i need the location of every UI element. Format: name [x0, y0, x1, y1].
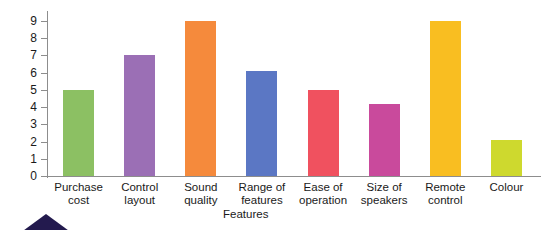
- y-tick-label: 7: [5, 49, 37, 61]
- x-tick-label-line: Colour: [476, 181, 537, 194]
- x-tick-label-remote-control: Remotecontrol: [415, 181, 476, 207]
- x-tick-label-line: speakers: [354, 194, 415, 207]
- x-tick-label-line: Control: [109, 181, 170, 194]
- x-tick-label-ease-of-operation: Ease ofoperation: [293, 181, 354, 207]
- y-tick-3: [41, 124, 48, 125]
- x-tick-label-line: Purchase: [48, 181, 109, 194]
- plot-area: [48, 12, 537, 176]
- y-tick-label-text: 1: [11, 153, 37, 165]
- x-tick-label-line: Sound: [170, 181, 231, 194]
- x-tick-label-line: operation: [293, 194, 354, 207]
- y-tick-label: 1: [5, 153, 37, 165]
- bar-remote-control: [430, 21, 461, 176]
- navy-triangle-icon: [16, 214, 76, 230]
- y-tick-4: [41, 107, 48, 108]
- y-tick-label: 0: [5, 170, 37, 182]
- bar-size-of-speakers: [369, 104, 400, 176]
- bar-range-of-features: [246, 71, 277, 176]
- x-tick-label-line: quality: [170, 194, 231, 207]
- y-tick-7: [41, 55, 48, 56]
- bar-chart-figure: 0123456789 PurchasecostControllayoutSoun…: [0, 0, 553, 230]
- bar-sound-quality: [185, 21, 216, 176]
- x-tick-label-colour: Colour: [476, 181, 537, 194]
- y-tick-label: 9: [5, 15, 37, 27]
- x-tick-label-line: Ease of: [293, 181, 354, 194]
- bar-purchase-cost: [63, 90, 94, 176]
- x-axis-line: [41, 176, 541, 177]
- x-tick-label-purchase-cost: Purchasecost: [48, 181, 109, 207]
- y-tick-label-text: 5: [11, 84, 37, 96]
- x-tick-label-control-layout: Controllayout: [109, 181, 170, 207]
- x-tick-label-size-of-speakers: Size ofspeakers: [354, 181, 415, 207]
- y-tick-label-text: 7: [11, 49, 37, 61]
- x-tick-label-line: features: [231, 194, 292, 207]
- y-tick-label: 4: [5, 101, 37, 113]
- y-tick-5: [41, 90, 48, 91]
- bar-colour: [491, 140, 522, 176]
- y-tick-label: 8: [5, 32, 37, 44]
- x-tick-label-line: Range of: [231, 181, 292, 194]
- y-tick-label: 6: [5, 67, 37, 79]
- x-tick-label-line: layout: [109, 194, 170, 207]
- y-tick-label-text: 2: [11, 136, 37, 148]
- x-axis-title: Features: [223, 208, 268, 221]
- y-tick-label-text: 3: [11, 118, 37, 130]
- bar-control-layout: [124, 55, 155, 176]
- x-tick-label-line: Remote: [415, 181, 476, 194]
- y-tick-label-text: 9: [11, 15, 37, 27]
- y-tick-label: 2: [5, 136, 37, 148]
- y-tick-label-text: 0: [11, 170, 37, 182]
- y-tick-label: 5: [5, 84, 37, 96]
- y-tick-9: [41, 21, 48, 22]
- y-tick-label: 3: [5, 118, 37, 130]
- y-tick-8: [41, 38, 48, 39]
- x-tick-label-line: cost: [48, 194, 109, 207]
- y-tick-label-text: 8: [11, 32, 37, 44]
- y-tick-label-text: 6: [11, 67, 37, 79]
- y-tick-6: [41, 73, 48, 74]
- bar-ease-of-operation: [308, 90, 339, 176]
- y-tick-label-text: 4: [11, 101, 37, 113]
- x-tick-label-sound-quality: Soundquality: [170, 181, 231, 207]
- x-tick-label-line: control: [415, 194, 476, 207]
- y-tick-1: [41, 159, 48, 160]
- y-tick-2: [41, 142, 48, 143]
- x-tick-label-range-of-features: Range offeatures: [231, 181, 292, 207]
- x-tick-label-line: Size of: [354, 181, 415, 194]
